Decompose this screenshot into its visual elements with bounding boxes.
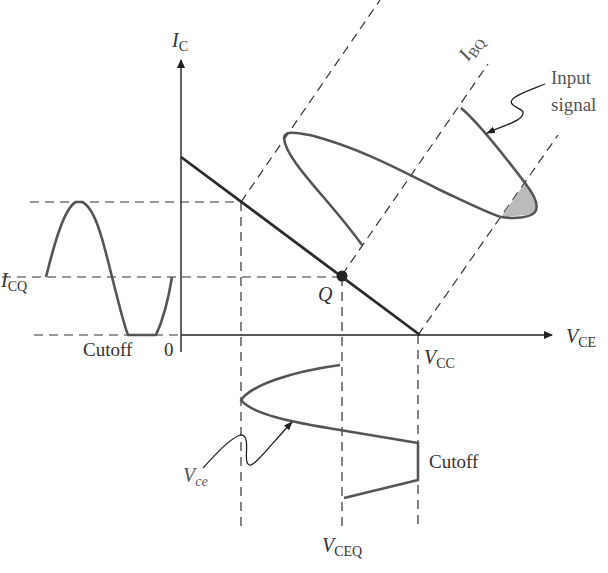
- projection-line-upper: [241, 0, 380, 202]
- vceq-label: VCEQ: [322, 535, 362, 559]
- load-line-diagram: [0, 0, 608, 573]
- x-axis-label-vce: VCE: [566, 326, 596, 350]
- vce-signal-label-sub: ce: [195, 474, 207, 489]
- icq-label-sub: CQ: [8, 279, 27, 294]
- q-point-marker: [337, 271, 348, 282]
- q-point-label: Q: [318, 284, 332, 304]
- y-axis-label-main: I: [172, 29, 179, 51]
- vce-output-waveform: [241, 365, 418, 498]
- ibq-line: [342, 64, 488, 275]
- vcc-label-sub: CC: [436, 356, 455, 371]
- x-axis-label-main: V: [566, 325, 578, 347]
- input-signal-pointer-arrow: [487, 84, 545, 133]
- vceq-label-main: V: [322, 534, 334, 556]
- diagonal-dashed-lines: [241, 0, 558, 335]
- x-axis-label-sub: CE: [578, 335, 596, 350]
- projection-line-lower: [418, 135, 558, 335]
- vce-signal-label: Vce: [183, 465, 208, 489]
- input-signal-label-line1: Input: [551, 68, 591, 87]
- y-axis-label-ic: IC: [172, 30, 188, 54]
- ic-output-waveform: [46, 202, 172, 335]
- vertical-dashed-lines: [241, 202, 418, 528]
- icq-label-main: I: [1, 269, 8, 291]
- vce-signal-label-main: V: [183, 464, 195, 486]
- input-signal-label-line2: signal: [551, 95, 596, 114]
- vcc-label: VCC: [424, 347, 455, 371]
- dc-load-line: [181, 157, 420, 335]
- icq-label: ICQ: [1, 270, 27, 294]
- cutoff-label-bottom: Cutoff: [429, 452, 478, 471]
- y-axis-label-sub: C: [179, 39, 188, 54]
- origin-label: 0: [164, 340, 174, 359]
- vce-pointer-arrow: [203, 422, 292, 468]
- vcc-label-main: V: [424, 346, 436, 368]
- vceq-label-sub: CEQ: [334, 544, 362, 559]
- cutoff-label-left: Cutoff: [83, 340, 132, 359]
